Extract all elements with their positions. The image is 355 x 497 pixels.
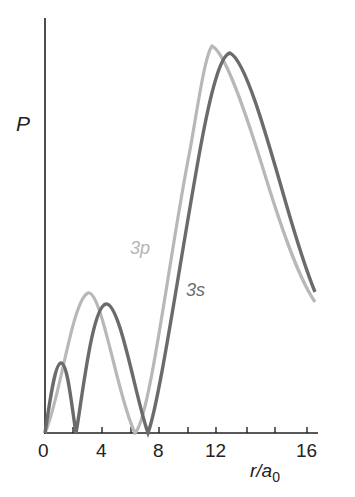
x-axis-label-sub: 0 (272, 469, 280, 485)
x-tick-label-12: 12 (205, 440, 226, 462)
x-tick-label-4: 4 (96, 440, 107, 462)
series-3s-label: 3s (186, 280, 205, 301)
y-axis-label: P (16, 112, 30, 136)
x-tick-label-0: 0 (38, 440, 49, 462)
x-axis-label-main: r/a (250, 460, 272, 481)
series-3p-label: 3p (130, 238, 150, 259)
x-axis-label: r/a0 (250, 460, 280, 485)
x-ticks (73, 427, 307, 433)
series-3s-curve (45, 53, 315, 433)
x-tick-label-8: 8 (153, 440, 164, 462)
x-tick-label-16: 16 (296, 440, 317, 462)
chart-canvas (0, 0, 355, 497)
